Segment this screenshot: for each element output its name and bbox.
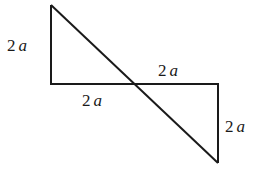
label-variable: a (237, 117, 246, 136)
label-number: 2 (158, 61, 167, 80)
label-number: 2 (82, 91, 91, 110)
label-top-horizontal: 2a (158, 62, 178, 79)
label-number: 2 (7, 36, 16, 55)
diagram-canvas (0, 0, 264, 180)
label-left-vertical: 2a (7, 37, 27, 54)
label-number: 2 (225, 117, 234, 136)
label-right-vertical: 2a (225, 118, 245, 135)
label-bottom-horizontal: 2a (82, 92, 102, 109)
label-variable: a (94, 91, 103, 110)
label-variable: a (19, 36, 28, 55)
label-variable: a (170, 61, 179, 80)
